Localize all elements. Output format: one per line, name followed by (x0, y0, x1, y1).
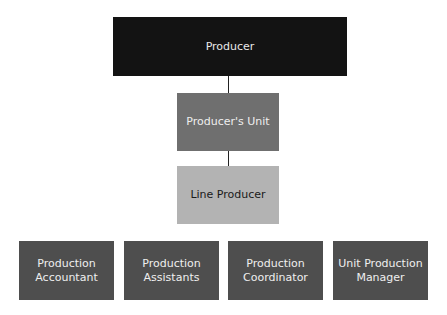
node-label: Producer's Unit (186, 115, 269, 129)
node-producer: Producer (113, 17, 347, 76)
node-line-producer: Line Producer (177, 166, 279, 224)
node-producers-unit: Producer's Unit (177, 93, 279, 151)
node-production-coordinator: Production Coordinator (228, 241, 323, 300)
node-label: Line Producer (190, 188, 265, 202)
node-label-line1: Production (37, 257, 96, 271)
connector-line (228, 151, 229, 166)
connector-line (228, 76, 229, 93)
node-production-assistants: Production Assistants (124, 241, 219, 300)
node-label: Producer (206, 40, 255, 54)
node-label-line2: Manager (356, 271, 404, 285)
node-label-line2: Accountant (35, 271, 97, 285)
node-production-accountant: Production Accountant (19, 241, 114, 300)
node-label-line1: Production (246, 257, 305, 271)
node-label-line1: Production (142, 257, 201, 271)
node-unit-production-manager: Unit Production Manager (333, 241, 428, 300)
node-label-line1: Unit Production (338, 257, 422, 271)
node-label-line2: Assistants (144, 271, 200, 285)
node-label-line2: Coordinator (243, 271, 308, 285)
